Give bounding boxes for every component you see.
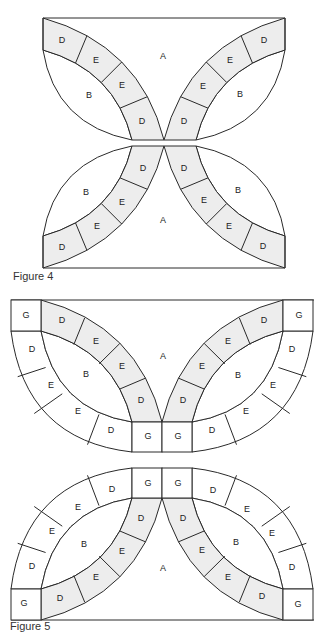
label-d: D	[138, 513, 145, 523]
figure-5-caption: Figure 5	[10, 620, 50, 632]
label-e: E	[75, 502, 81, 512]
label-d: D	[139, 116, 146, 126]
label-d: D	[138, 395, 145, 405]
label-e: E	[119, 361, 125, 371]
label-d: D	[180, 395, 187, 405]
label-d: D	[209, 425, 216, 435]
label-d: D	[57, 593, 64, 603]
label-e: E	[119, 197, 125, 207]
label-e: E	[94, 221, 100, 231]
label-d: D	[180, 513, 187, 523]
label-e: E	[244, 504, 250, 514]
label-b: B	[235, 185, 241, 195]
label-d: D	[108, 425, 115, 435]
label-e: E	[226, 221, 232, 231]
figure-5: G D E E D B A D E E D G G D E E D G D E …	[11, 300, 314, 620]
figure-4-caption: Figure 4	[13, 270, 53, 282]
label-g: G	[22, 310, 29, 320]
label-e: E	[93, 572, 99, 582]
label-e: E	[93, 55, 99, 65]
label-d: D	[109, 484, 116, 494]
figure-4: D E E D B A D E E D B D E E D B A D E E …	[43, 18, 285, 268]
label-b: B	[237, 89, 243, 99]
label-b: B	[86, 90, 92, 100]
label-d: D	[181, 163, 188, 173]
label-g: G	[144, 478, 151, 488]
label-d: D	[261, 315, 268, 325]
label-a: A	[160, 563, 166, 573]
label-e: E	[227, 55, 233, 65]
label-a: A	[160, 215, 166, 225]
label-g: G	[174, 431, 181, 441]
label-d: D	[59, 315, 66, 325]
label-e: E	[199, 545, 205, 555]
label-a: A	[160, 351, 166, 361]
label-e: E	[201, 195, 207, 205]
label-e: E	[270, 380, 276, 390]
label-e: E	[243, 406, 249, 416]
label-g: G	[144, 431, 151, 441]
label-b: B	[83, 369, 89, 379]
label-g: G	[20, 598, 27, 608]
label-d: D	[210, 485, 217, 495]
label-b: B	[81, 539, 87, 549]
label-e: E	[269, 528, 275, 538]
label-d: D	[29, 344, 36, 354]
label-e: E	[75, 406, 81, 416]
label-b: B	[83, 187, 89, 197]
label-e: E	[48, 380, 54, 390]
label-d: D	[289, 562, 296, 572]
label-b: B	[235, 370, 241, 380]
label-e: E	[93, 336, 99, 346]
label-d: D	[29, 561, 36, 571]
label-e: E	[49, 526, 55, 536]
label-d: D	[260, 241, 267, 251]
label-d: D	[140, 163, 147, 173]
label-g: G	[295, 310, 302, 320]
label-e: E	[199, 361, 205, 371]
label-d: D	[59, 242, 66, 252]
label-e: E	[225, 572, 231, 582]
label-e: E	[225, 336, 231, 346]
label-d: D	[259, 591, 266, 601]
label-e: E	[119, 546, 125, 556]
label-a: A	[160, 51, 166, 61]
label-e: E	[200, 81, 206, 91]
label-g: G	[174, 478, 181, 488]
quilt-diagram: D E E D B A D E E D B D E E D B A D E E …	[0, 0, 330, 635]
label-b: B	[233, 537, 239, 547]
label-g: G	[294, 599, 301, 609]
label-d: D	[289, 344, 296, 354]
label-d: D	[261, 35, 268, 45]
label-d: D	[181, 116, 188, 126]
label-d: D	[59, 35, 66, 45]
label-e: E	[119, 80, 125, 90]
